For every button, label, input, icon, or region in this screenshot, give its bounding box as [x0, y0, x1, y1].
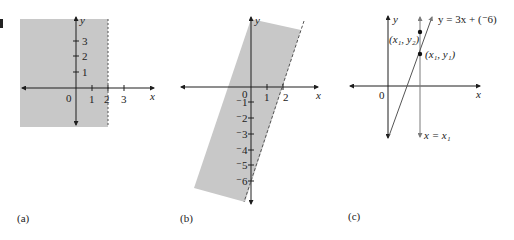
- cropped-glyph: [0, 19, 3, 28]
- point2-label: (x₁, y₂): [389, 33, 420, 46]
- panel-a: 0 1 2 3 1 2 3 x y (a): [17, 14, 155, 225]
- line-label-c: y = 3x + (⁻6): [438, 13, 497, 26]
- origin-label-a: 0: [66, 92, 72, 104]
- y-tick-neg5-b: ⁻5: [236, 159, 248, 171]
- x-tick-3-a: 3: [121, 93, 127, 105]
- panel-b: 0 1 2 ⁻1 ⁻2 ⁻3 ⁻4 ⁻5 ⁻6 x y (b): [180, 14, 321, 225]
- x-label-a: x: [149, 90, 155, 102]
- y-label-b: y: [254, 14, 260, 26]
- origin-label-c: 0: [379, 89, 385, 101]
- y-tick-neg3-b: ⁻3: [236, 128, 248, 140]
- y-label-a: y: [79, 14, 85, 26]
- figure-canvas: 0 1 2 3 1 2 3 x y (a) 0 1 2 ⁻1 ⁻2 ⁻3: [0, 0, 514, 240]
- x-tick-2-a: 2: [104, 93, 110, 105]
- x-tick-1-b: 1: [264, 91, 270, 103]
- y-tick-1-a: 1: [82, 66, 88, 78]
- y-tick-neg1-b: ⁻1: [236, 96, 248, 108]
- x-tick-1-a: 1: [89, 93, 95, 105]
- x-label-b: x: [315, 89, 321, 101]
- caption-a: (a): [17, 212, 30, 225]
- caption-c: (c): [348, 210, 361, 223]
- panel-c: 0 x y y = 3x + (⁻6) (x₁, y₂) (x₁, y₁) x …: [348, 13, 497, 223]
- point-x1-y1: [418, 52, 422, 56]
- y-tick-3-a: 3: [82, 35, 88, 47]
- y-tick-2-a: 2: [82, 50, 88, 62]
- shaded-region-a: [20, 19, 108, 127]
- y-tick-neg6-b: ⁻6: [236, 175, 248, 187]
- y-tick-neg4-b: ⁻4: [236, 144, 248, 156]
- vline-label: x = x₁: [423, 129, 451, 141]
- caption-b: (b): [180, 212, 193, 225]
- x-tick-2-b: 2: [283, 91, 289, 103]
- x-label-c: x: [475, 88, 481, 100]
- y-tick-neg2-b: ⁻2: [236, 112, 248, 124]
- shaded-region-b: [194, 19, 301, 202]
- point1-label: (x₁, y₁): [425, 48, 456, 61]
- y-label-c: y: [392, 13, 398, 25]
